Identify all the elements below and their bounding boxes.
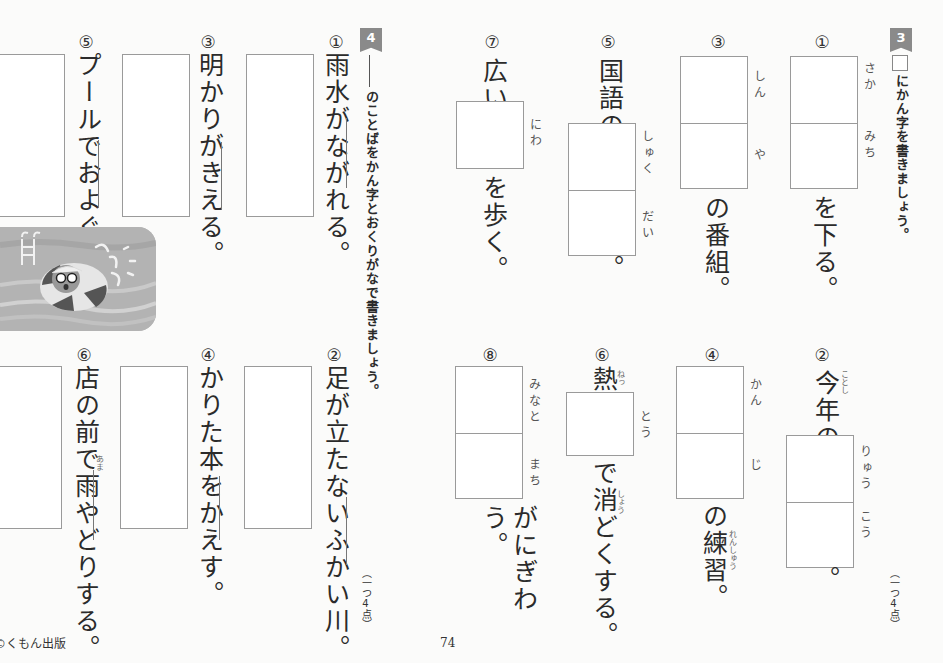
section-4-instruction: のことばをかん字とおくりがなで書きましょう。 <box>362 90 381 398</box>
answer-box[interactable] <box>244 366 312 529</box>
ruby-text: ことし <box>838 370 849 394</box>
ruby-text: れんしゅう <box>726 530 737 570</box>
section-3-instruction: にかん字を書きましょう。 <box>892 74 911 242</box>
kanji-answer-box[interactable] <box>566 392 634 456</box>
question-number: ⑥ <box>72 345 96 365</box>
answer-box[interactable] <box>0 366 62 529</box>
furigana: とう <box>636 410 653 442</box>
kanji-answer-box[interactable] <box>568 123 636 256</box>
question-number: ④ <box>700 345 724 365</box>
furigana: だい <box>638 210 655 242</box>
question-number: ⑦ <box>480 32 504 52</box>
underline <box>93 470 94 540</box>
question-number: ③ <box>706 32 730 52</box>
kanji-answer-box[interactable] <box>680 56 748 189</box>
question-number: ⑧ <box>478 345 502 365</box>
furigana: まち <box>525 458 542 490</box>
furigana: かん <box>746 378 763 410</box>
kanji-answer-box[interactable] <box>786 435 854 568</box>
sentence-after: の練習。 <box>698 503 728 611</box>
swimming-illustration <box>0 227 156 331</box>
kanji-answer-box[interactable] <box>455 366 523 499</box>
ruby-text: あま <box>93 455 104 471</box>
question-number: ② <box>322 345 346 365</box>
sentence-after: を下る。 <box>808 195 838 303</box>
furigana: りゅう <box>856 445 873 493</box>
question-number: ③ <box>196 32 220 52</box>
furigana: や <box>750 148 767 164</box>
ruby-text: しょう <box>614 490 625 514</box>
sentence: 店の前で雨やどりする。 <box>70 365 100 662</box>
page-number: 74 <box>440 636 455 650</box>
ruby-text: ねっ <box>614 370 625 386</box>
kanji-answer-box[interactable] <box>790 56 858 189</box>
sentence-after: がにぎわう。 <box>478 505 538 663</box>
furigana: みち <box>860 130 877 162</box>
underline <box>346 118 347 188</box>
underline <box>98 140 99 208</box>
question-number: ① <box>324 32 348 52</box>
furigana: にわ <box>526 118 543 150</box>
publisher-credit: ©くもん出版 <box>0 634 66 651</box>
question-number: ④ <box>196 345 220 365</box>
sentence-after: 。 <box>810 566 840 593</box>
section-4-points: （一つ4点） <box>358 568 373 629</box>
underline <box>346 497 347 565</box>
furigana: しゅく <box>638 130 655 178</box>
answer-box[interactable] <box>120 366 188 529</box>
answer-box[interactable] <box>0 54 65 217</box>
furigana: じ <box>746 458 763 474</box>
kanji-answer-box[interactable] <box>456 101 524 169</box>
question-number: ⑤ <box>74 32 98 52</box>
sentence-after: 。 <box>594 255 624 282</box>
sentence-after: を歩く。 <box>478 175 508 283</box>
underline-sample-icon <box>369 55 370 87</box>
furigana: さか <box>860 62 877 94</box>
section-4-badge: 4 <box>360 28 382 52</box>
furigana: みなと <box>525 378 542 426</box>
furigana: しん <box>750 70 767 102</box>
question-number: ① <box>810 32 834 52</box>
section-3-points: （一つ4点） <box>886 568 901 629</box>
sentence-after: の番組。 <box>700 195 730 303</box>
question-number: ⑤ <box>596 32 620 52</box>
kanji-answer-box[interactable] <box>676 366 744 499</box>
answer-box[interactable] <box>246 54 314 217</box>
underline <box>219 476 220 540</box>
blank-box-icon <box>892 55 908 71</box>
sentence: 明かりがきえる。 <box>194 52 224 268</box>
sentence-after: で消どくする。 <box>588 460 618 649</box>
section-3-badge: 3 <box>890 28 912 52</box>
question-number: ② <box>810 345 834 365</box>
furigana: こう <box>856 510 873 542</box>
answer-box[interactable] <box>122 54 190 217</box>
underline <box>221 142 222 210</box>
question-number: ⑥ <box>590 345 614 365</box>
